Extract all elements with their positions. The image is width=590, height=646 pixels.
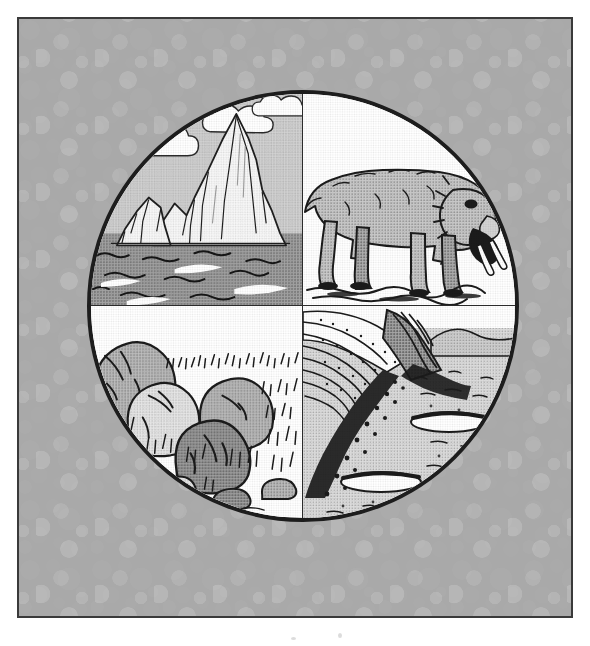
plate-smudge-right — [338, 633, 342, 638]
panel-prehistoric-mammal — [303, 94, 515, 306]
glacier-icon — [303, 306, 515, 518]
panel-erratic-boulders — [91, 306, 303, 518]
boulder-icon — [91, 306, 302, 517]
illustration-plate — [17, 17, 573, 618]
panel-iceberg — [91, 94, 303, 306]
mammal-icon — [303, 94, 515, 306]
circular-medallion — [87, 90, 519, 522]
panel-glacier-meltwater — [303, 306, 515, 518]
iceberg-icon — [91, 94, 302, 305]
plate-smudge-left — [291, 637, 296, 640]
